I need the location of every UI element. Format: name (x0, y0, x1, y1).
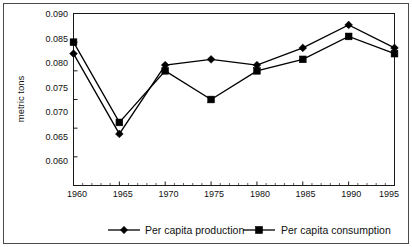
x-tick-label-1970: 1970 (158, 189, 178, 199)
legend-label-consumption: Per capita consumption (281, 224, 391, 236)
y-tick-label-0085: 0.085 (45, 34, 68, 44)
data-point-square-marker (162, 67, 169, 74)
data-point-square-marker (391, 50, 398, 57)
data-point-square-marker (116, 119, 123, 126)
y-axis-title: metric tons (15, 76, 26, 123)
y-tick-label-0065: 0.065 (45, 132, 68, 142)
y-tick-label-0075: 0.075 (45, 83, 68, 93)
x-tick-label-1960: 1960 (67, 189, 87, 199)
x-tick-label-1985: 1985 (296, 189, 316, 199)
data-point-diamond-marker (345, 21, 353, 29)
data-point-square-marker (254, 67, 261, 74)
series-line-0 (74, 25, 395, 134)
x-tick-label-1980: 1980 (250, 189, 270, 199)
line-chart: metric tons 0.090 0.085 0.080 0.075 0.07… (0, 0, 412, 247)
data-point-diamond-marker (70, 50, 78, 58)
data-point-diamond-marker (299, 44, 307, 52)
chart-legend: Per capita production Per capita consump… (108, 224, 391, 236)
data-point-square-marker (70, 39, 77, 46)
x-tick-label-1975: 1975 (204, 189, 224, 199)
x-tick-label-1995: 1995 (379, 189, 399, 199)
y-tick-label-0080: 0.080 (45, 58, 68, 68)
legend-label-production: Per capita production (145, 224, 244, 236)
data-point-diamond-marker (207, 55, 215, 63)
data-point-diamond-marker (115, 130, 123, 138)
y-tick-label-0060: 0.060 (45, 156, 68, 166)
y-tick-label-0070: 0.070 (45, 107, 68, 117)
series-plot-area (70, 21, 399, 138)
data-point-square-marker (208, 96, 215, 103)
series-line-1 (74, 36, 395, 122)
y-tick-label-0090: 0.090 (45, 9, 68, 19)
legend-marker-diamond-icon (120, 226, 127, 234)
chart-figure: metric tons 0.090 0.085 0.080 0.075 0.07… (0, 0, 412, 247)
x-tick-label-1990: 1990 (341, 189, 361, 199)
data-point-square-marker (299, 56, 306, 63)
data-point-square-marker (345, 33, 352, 40)
x-tick-label-1965: 1965 (113, 189, 133, 199)
legend-marker-square-icon (255, 226, 262, 233)
